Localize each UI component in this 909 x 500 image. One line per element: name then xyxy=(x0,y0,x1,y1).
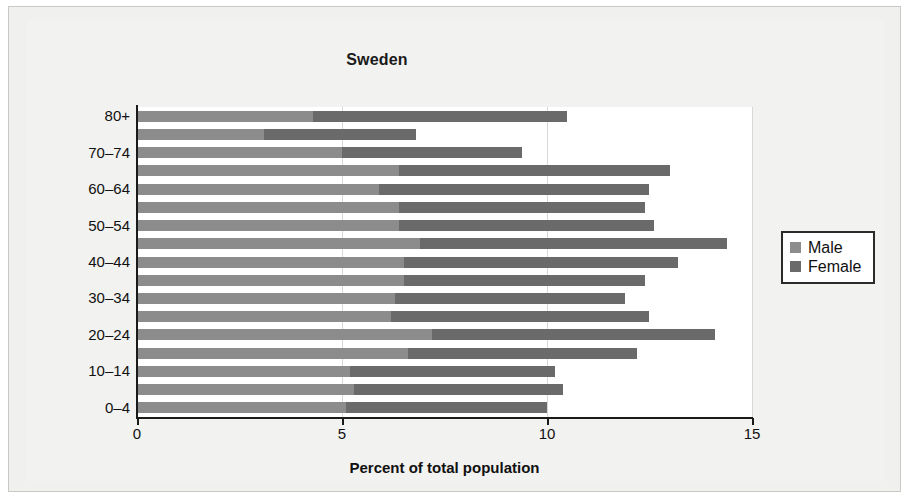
y-axis-tick-label: 20–24 xyxy=(30,326,130,343)
bar-segment-female xyxy=(432,329,715,340)
legend-swatch-icon xyxy=(790,261,801,272)
legend-item: Male xyxy=(790,239,861,257)
bar-row xyxy=(137,147,752,158)
x-axis-tick-label: 0 xyxy=(133,425,141,442)
legend-swatch-icon xyxy=(790,242,801,253)
bar-segment-male xyxy=(137,238,420,249)
bar-segment-female xyxy=(399,165,670,176)
bar-segment-female xyxy=(404,275,646,286)
x-axis-tick xyxy=(342,418,344,425)
legend-item: Female xyxy=(790,258,861,276)
bar-segment-female xyxy=(399,220,653,231)
bar-segment-female xyxy=(399,202,645,213)
chart-legend: MaleFemale xyxy=(781,231,875,284)
bar-segment-male xyxy=(137,366,350,377)
bar-segment-female xyxy=(313,111,567,122)
bar-row xyxy=(137,220,752,231)
bar-segment-male xyxy=(137,202,399,213)
y-axis-tick-label: 80+ xyxy=(30,107,130,124)
bar-row xyxy=(137,129,752,140)
bar-row xyxy=(137,293,752,304)
bar-row xyxy=(137,165,752,176)
y-axis-tick-label: 50–54 xyxy=(30,217,130,234)
bar-segment-male xyxy=(137,111,313,122)
bar-row xyxy=(137,384,752,395)
legend-label: Male xyxy=(808,239,843,257)
bar-segment-male xyxy=(137,384,354,395)
bar-row xyxy=(137,311,752,322)
bar-row xyxy=(137,257,752,268)
bar-segment-female xyxy=(346,402,547,413)
bar-row xyxy=(137,366,752,377)
bar-segment-female xyxy=(395,293,625,304)
bar-segment-male xyxy=(137,184,379,195)
gridline xyxy=(752,107,753,417)
bar-row xyxy=(137,402,752,413)
plot-area xyxy=(137,107,752,417)
bar-segment-male xyxy=(137,348,408,359)
bar-segment-female xyxy=(264,129,416,140)
screenshot-root: Sweden 80+70–7460–6450–5440–4430–3420–24… xyxy=(0,0,909,500)
x-axis-tick-label: 10 xyxy=(539,425,556,442)
bar-segment-male xyxy=(137,402,346,413)
bar-segment-female xyxy=(420,238,728,249)
y-axis-tick-label: 30–34 xyxy=(30,289,130,306)
x-axis-tick-label: 15 xyxy=(744,425,761,442)
y-axis-tick-label: 60–64 xyxy=(30,180,130,197)
bar-segment-female xyxy=(379,184,650,195)
bar-segment-female xyxy=(354,384,563,395)
bar-segment-female xyxy=(350,366,555,377)
bar-row xyxy=(137,348,752,359)
bar-segment-female xyxy=(342,147,522,158)
y-axis-tick-label: 40–44 xyxy=(30,253,130,270)
bar-segment-male xyxy=(137,275,404,286)
bar-segment-male xyxy=(137,311,391,322)
bar-row xyxy=(137,184,752,195)
x-axis-tick xyxy=(752,418,754,425)
legend-label: Female xyxy=(808,258,861,276)
bar-segment-female xyxy=(408,348,638,359)
bar-row xyxy=(137,111,752,122)
bar-segment-male xyxy=(137,165,399,176)
x-axis-line xyxy=(136,417,753,419)
bar-segment-male xyxy=(137,129,264,140)
x-axis-tick-label: 5 xyxy=(338,425,346,442)
bar-row xyxy=(137,329,752,340)
y-axis-tick-label: 10–14 xyxy=(30,362,130,379)
bar-segment-male xyxy=(137,257,404,268)
bar-segment-male xyxy=(137,147,342,158)
bar-segment-male xyxy=(137,293,395,304)
bar-segment-male xyxy=(137,220,399,231)
x-axis-tick xyxy=(547,418,549,425)
x-axis-tick xyxy=(137,418,139,425)
bar-row xyxy=(137,238,752,249)
bar-row xyxy=(137,202,752,213)
figure-panel: Sweden 80+70–7460–6450–5440–4430–3420–24… xyxy=(8,6,901,492)
y-axis-tick-label: 70–74 xyxy=(30,144,130,161)
bar-segment-female xyxy=(404,257,679,268)
y-axis-tick-label: 0–4 xyxy=(30,399,130,416)
bar-segment-female xyxy=(391,311,649,322)
chart-card: Sweden 80+70–7460–6450–5440–4430–3420–24… xyxy=(27,19,884,481)
y-axis-tick-labels: 80+70–7460–6450–5440–4430–3420–2410–140–… xyxy=(27,107,130,417)
chart-title: Sweden xyxy=(27,51,727,69)
plot-inner xyxy=(137,107,752,417)
y-axis-line xyxy=(136,105,138,418)
x-axis-title: Percent of total population xyxy=(137,459,752,476)
bar-segment-male xyxy=(137,329,432,340)
bar-row xyxy=(137,275,752,286)
